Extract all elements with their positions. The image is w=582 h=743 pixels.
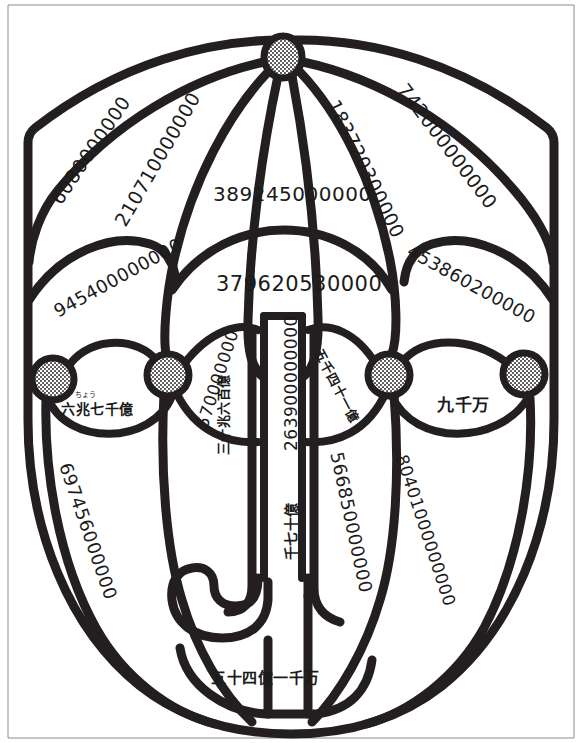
node-left-inner <box>147 354 189 396</box>
node-label-left-outer-ruby: ちょう <box>75 389 96 399</box>
dome-ribs <box>29 62 553 376</box>
node-row-arcs <box>48 327 528 442</box>
node-right-inner <box>368 354 410 396</box>
diagram-artwork <box>0 0 582 743</box>
diagram-canvas: 6080000000210710000000389245000000183720… <box>0 0 582 743</box>
node-top <box>264 36 302 78</box>
bottom-lobe <box>180 596 372 714</box>
node-left-outer <box>32 358 74 400</box>
node-right-outer <box>503 353 545 395</box>
central-strip <box>228 316 340 622</box>
bottom-hook <box>172 568 308 638</box>
